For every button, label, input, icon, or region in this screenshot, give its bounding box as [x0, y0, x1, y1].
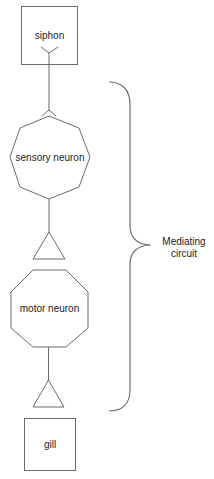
mediating-circuit-label-line1: Mediating — [162, 236, 205, 247]
mediating-circuit-label-line2: circuit — [171, 248, 197, 259]
gill-node: gill — [25, 419, 76, 471]
mediating-circuit-brace — [109, 82, 151, 411]
motor-neuron-label: motor neuron — [20, 303, 79, 314]
siphon-label: siphon — [35, 30, 64, 41]
motor-neuron-node: motor neuron — [11, 270, 88, 347]
neural-circuit-diagram: siphon sensory neuron motor neuron gill … — [0, 0, 214, 479]
gill-label: gill — [44, 439, 56, 450]
dendrite-fork-icon — [42, 110, 56, 116]
sensory-neuron-node: sensory neuron — [10, 116, 90, 199]
synapse-triangle-2 — [33, 380, 64, 407]
synapse-triangle-1 — [33, 232, 65, 259]
sensory-neuron-label: sensory neuron — [16, 152, 85, 163]
